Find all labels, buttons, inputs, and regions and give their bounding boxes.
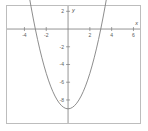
graph-figure: -4-22462-2-4-6-8xy <box>0 0 148 131</box>
y-tick-label: -6 <box>60 79 65 85</box>
plot-canvas: -4-22462-2-4-6-8xy <box>0 0 148 131</box>
x-tick-label: -4 <box>22 32 27 38</box>
axes-layer <box>7 6 140 123</box>
x-tick-label: 4 <box>110 32 113 38</box>
y-tick-label: 2 <box>61 8 64 14</box>
labels-layer: -4-22462-2-4-6-8xy <box>22 7 138 103</box>
x-axis-label: x <box>134 20 138 26</box>
x-tick-label: 6 <box>132 32 135 38</box>
ticks-layer <box>24 11 133 100</box>
y-axis-label: y <box>71 7 76 13</box>
x-tick-label: -2 <box>44 32 49 38</box>
y-tick-label: -4 <box>60 61 65 67</box>
y-tick-label: -8 <box>60 97 65 103</box>
x-tick-label: 2 <box>88 32 91 38</box>
y-tick-label: -2 <box>60 44 65 50</box>
